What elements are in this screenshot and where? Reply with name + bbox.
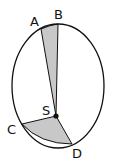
label-b: B — [54, 7, 63, 22]
label-a: A — [30, 14, 39, 29]
focus-point-s — [53, 113, 58, 118]
label-d: D — [72, 146, 82, 161]
orbit-diagram: A B S C D — [0, 0, 115, 164]
label-s: S — [42, 103, 50, 118]
sector-csd — [22, 116, 72, 144]
label-c: C — [7, 122, 16, 137]
